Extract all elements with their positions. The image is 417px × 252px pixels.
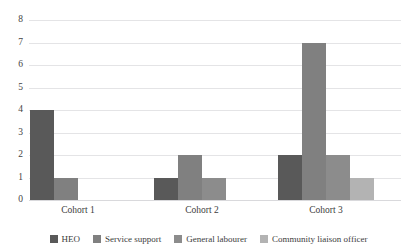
x-axis-category-label: Cohort 1 <box>61 203 95 217</box>
y-axis-tick-label: 8 <box>18 15 23 25</box>
bar <box>30 110 54 200</box>
x-axis-category-labels: Cohort 1Cohort 2Cohort 3 <box>29 203 401 219</box>
legend-label: General labourer <box>186 235 247 244</box>
bar <box>202 178 226 201</box>
bar <box>154 178 178 201</box>
legend-item[interactable]: General labourer <box>174 235 247 244</box>
legend-label: HEO <box>62 235 81 244</box>
x-axis-category-label: Cohort 2 <box>185 203 219 217</box>
legend-item[interactable]: Service support <box>93 235 161 244</box>
legend-label: Community liaison officer <box>272 235 367 244</box>
bar <box>326 155 350 200</box>
bar <box>178 155 202 200</box>
y-axis-tick-label: 5 <box>18 83 23 93</box>
gridline: 0 <box>29 200 401 201</box>
y-axis-tick-label: 4 <box>18 105 23 115</box>
y-axis-tick-label: 2 <box>18 150 23 160</box>
y-axis-tick-label: 3 <box>18 128 23 138</box>
bar <box>350 178 374 201</box>
bars-layer <box>29 20 401 200</box>
x-axis-category-label: Cohort 3 <box>309 203 343 217</box>
chart-legend: HEOService supportGeneral labourerCommun… <box>0 231 417 247</box>
bar <box>54 178 78 201</box>
legend-item[interactable]: Community liaison officer <box>260 235 367 244</box>
y-axis-tick-label: 7 <box>18 38 23 48</box>
legend-swatch-icon <box>174 235 182 243</box>
legend-swatch-icon <box>93 235 101 243</box>
legend-item[interactable]: HEO <box>50 235 81 244</box>
bar-chart: 012345678 Cohort 1Cohort 2Cohort 3 HEOSe… <box>0 0 417 252</box>
plot-area: 012345678 <box>29 20 401 200</box>
legend-label: Service support <box>105 235 161 244</box>
bar <box>302 43 326 201</box>
legend-swatch-icon <box>260 235 268 243</box>
legend-swatch-icon <box>50 235 58 243</box>
y-axis-tick-label: 1 <box>18 173 23 183</box>
y-axis-tick-label: 6 <box>18 60 23 70</box>
y-axis-tick-label: 0 <box>18 195 23 205</box>
bar <box>278 155 302 200</box>
